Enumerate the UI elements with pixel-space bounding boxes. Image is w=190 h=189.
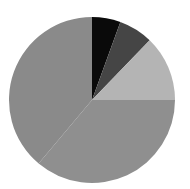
pie-chart-container: Segment 1Segment 2Segment 3Segment 4Segm… <box>0 0 190 189</box>
pie-slice-group: Segment 1Segment 2Segment 3Segment 4Segm… <box>9 17 175 183</box>
pie-chart: Segment 1Segment 2Segment 3Segment 4Segm… <box>0 0 190 189</box>
